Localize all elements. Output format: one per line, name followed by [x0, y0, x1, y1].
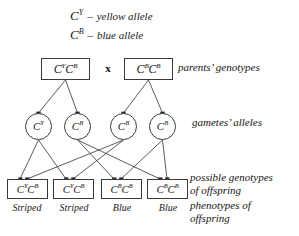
connector-gamete2-offspring4 [78, 140, 161, 179]
connector-parent2-gamete3 [124, 80, 149, 113]
genetics-cross-diagram: CY – yellow allele CB – blue allele [0, 0, 299, 236]
offspring-genotype-text-1: CYCB [17, 184, 38, 195]
legend-row-yellow-allele: CY – yellow allele [70, 8, 153, 24]
connector-parent1-gamete1 [39, 80, 66, 113]
gamete-allele-text-2: CB [72, 121, 83, 132]
legend-label-blue: blue allele [97, 29, 143, 41]
legend-separator-blue: – [88, 29, 94, 41]
label-phenotypes-of-offspring: phenotypes of offspring [190, 199, 251, 225]
connector-gamete4-offspring3 [121, 140, 163, 179]
offspring-genotype-text-3: CBCB [111, 184, 133, 195]
legend-allele-symbol-blue: CB [70, 27, 84, 43]
connector-parent2-gamete4 [149, 80, 163, 113]
offspring-genotype-text-2: CYCB [63, 184, 84, 195]
cross-symbol: x [100, 62, 116, 74]
offspring-genotype-box-3: CBCB [101, 179, 142, 199]
gamete-allele-text-1: CY [33, 121, 44, 132]
connector-gamete1-offspring1 [20, 140, 39, 179]
gamete-circle-2: CB [64, 113, 91, 140]
gamete-circle-1: CY [25, 113, 52, 140]
gamete-allele-text-3: CB [118, 121, 129, 132]
gamete-allele-text-4: CB [157, 121, 168, 132]
phenotype-label-4: Blue [140, 202, 196, 213]
label-parents-genotypes: parents’ genotypes [178, 61, 260, 74]
gamete-circle-3: CB [110, 113, 137, 140]
legend-label-yellow: yellow allele [97, 10, 153, 22]
label-possible-genotypes-of-offspring: possible genotypes of offspring [190, 171, 273, 197]
legend-separator-yellow: – [87, 10, 93, 22]
gamete-circle-4: CB [149, 113, 176, 140]
connector-gamete4-offspring4 [163, 140, 168, 179]
parent-genotype-text-2: CBCB [137, 63, 161, 75]
connector-gamete3-offspring1 [27, 140, 124, 179]
connector-gamete2-offspring3 [78, 140, 115, 179]
offspring-genotype-text-4: CBCB [157, 184, 179, 195]
parent-genotype-box-1: CYCB [41, 58, 90, 80]
label-gametes-alleles: gametes’ alleles [192, 116, 262, 129]
offspring-genotype-box-2: CYCB [53, 179, 94, 199]
connector-gamete1-offspring2 [39, 140, 67, 179]
parent-genotype-box-2: CBCB [124, 58, 173, 80]
legend-allele-symbol-yellow: CY [70, 8, 83, 24]
offspring-genotype-box-4: CBCB [147, 179, 188, 199]
connector-parent1-gamete2 [66, 80, 78, 113]
parent-genotype-text-1: CYCB [54, 63, 77, 75]
offspring-genotype-box-1: CYCB [7, 179, 48, 199]
connector-gamete3-offspring2 [73, 140, 124, 179]
legend-row-blue-allele: CB – blue allele [70, 27, 143, 43]
